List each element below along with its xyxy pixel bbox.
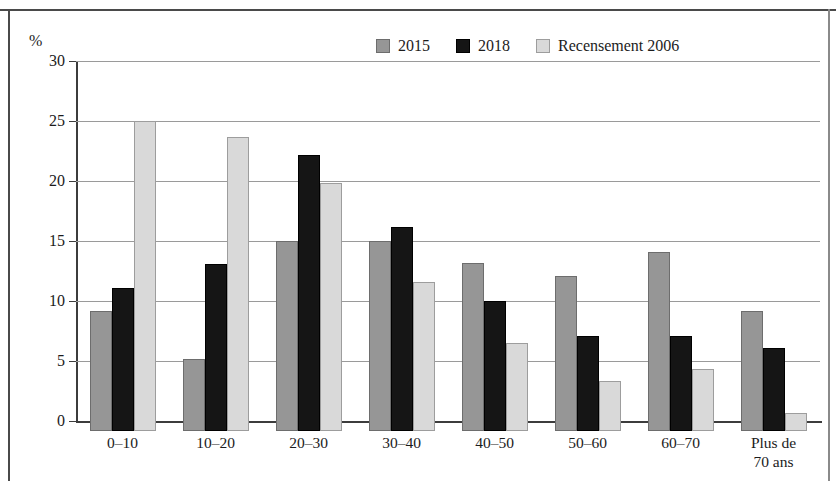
frame-border-right: [828, 9, 830, 481]
y-axis-tick-label: 15: [49, 233, 65, 249]
bar: [391, 227, 413, 431]
bar: [413, 282, 435, 431]
bar: [599, 381, 621, 431]
bar: [484, 301, 506, 431]
y-axis-tick-label: 25: [49, 113, 65, 129]
x-axis-category-label: Plus de 70 ans: [727, 434, 820, 472]
bar: [183, 359, 205, 431]
bar: [369, 241, 391, 431]
bar: [320, 183, 342, 431]
bar: [298, 155, 320, 431]
gridline: [76, 181, 820, 182]
bar-chart-figure: % 20152018Recensement 2006 051015202530 …: [0, 0, 836, 481]
y-axis-tick: [69, 241, 76, 242]
x-axis-category-label: 0–10: [76, 434, 169, 453]
bar: [90, 311, 112, 431]
y-axis-tick: [69, 121, 76, 122]
bar: [785, 413, 807, 431]
bar: [134, 121, 156, 431]
bar: [205, 264, 227, 431]
x-axis-category-label: 60–70: [634, 434, 727, 453]
x-axis-category-label: 10–20: [169, 434, 262, 453]
x-axis-category-label: 20–30: [262, 434, 355, 453]
bar: [276, 241, 298, 431]
y-axis-tick: [69, 421, 76, 422]
legend-swatch-icon: [376, 39, 390, 53]
bar: [692, 369, 714, 431]
bar: [555, 276, 577, 431]
y-axis-tick-label: 20: [49, 173, 65, 189]
legend-entry: 2015: [376, 38, 430, 54]
bar: [506, 343, 528, 431]
legend-label: 2018: [478, 38, 510, 54]
bar: [112, 288, 134, 431]
bar: [577, 336, 599, 431]
y-axis-unit-label: %: [29, 33, 42, 49]
gridline: [76, 301, 820, 302]
bar: [763, 348, 785, 431]
y-axis-tick: [69, 181, 76, 182]
gridline: [76, 121, 820, 122]
legend-swatch-icon: [536, 39, 550, 53]
x-axis-category-label: 50–60: [541, 434, 634, 453]
legend-label: Recensement 2006: [558, 38, 679, 54]
x-axis-category-label: 40–50: [448, 434, 541, 453]
legend-swatch-icon: [456, 39, 470, 53]
y-axis-tick-label: 10: [49, 293, 65, 309]
x-axis-category-label: 30–40: [355, 434, 448, 453]
gridline: [76, 61, 820, 62]
y-axis-tick-label: 0: [57, 413, 65, 429]
legend-label: 2015: [398, 38, 430, 54]
bar: [670, 336, 692, 431]
plot-area: 051015202530: [76, 61, 820, 431]
chart-legend: 20152018Recensement 2006: [376, 38, 679, 54]
bar: [741, 311, 763, 431]
bar: [227, 137, 249, 431]
bar: [462, 263, 484, 431]
frame-border-left: [8, 9, 10, 481]
y-axis-tick-label: 30: [49, 53, 65, 69]
y-axis-tick: [69, 361, 76, 362]
legend-entry: 2018: [456, 38, 510, 54]
legend-entry: Recensement 2006: [536, 38, 679, 54]
y-axis-tick-label: 5: [57, 353, 65, 369]
y-axis-tick: [69, 61, 76, 62]
bar: [648, 252, 670, 431]
frame-border-top: [0, 9, 836, 11]
y-axis-tick: [69, 301, 76, 302]
gridline: [76, 241, 820, 242]
